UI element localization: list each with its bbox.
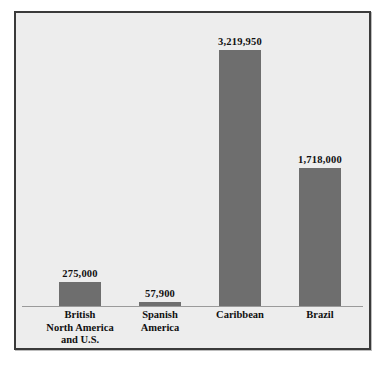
x-axis-baseline (22, 306, 363, 307)
x-axis-label-line: America (108, 322, 212, 335)
bar-value-label: 1,718,000 (298, 154, 342, 165)
bar-value-label: 275,000 (62, 268, 98, 279)
bar-group-british-north-america-and-us: 275,000 (38, 13, 122, 306)
x-axis-label-brazil: Brazil (268, 309, 372, 322)
bar-group-spanish-america: 57,900 (118, 13, 202, 306)
chart-frame: 275,000 57,900 3,219,950 1,718,000 Briti… (14, 11, 371, 350)
bar-british-north-america-and-us[interactable] (59, 282, 101, 306)
x-axis-label-line: Brazil (268, 309, 372, 322)
bar-value-label: 57,900 (145, 288, 175, 299)
bar-series: 275,000 57,900 3,219,950 1,718,000 (16, 13, 369, 306)
bar-brazil[interactable] (299, 168, 341, 306)
bar-group-brazil: 1,718,000 (278, 13, 362, 306)
bar-caribbean[interactable] (219, 50, 261, 306)
bar-value-label: 3,219,950 (218, 36, 262, 47)
plot-area: 275,000 57,900 3,219,950 1,718,000 Briti… (16, 13, 369, 348)
x-axis-label-line: and U.S. (28, 334, 132, 347)
bar-group-caribbean: 3,219,950 (198, 13, 282, 306)
